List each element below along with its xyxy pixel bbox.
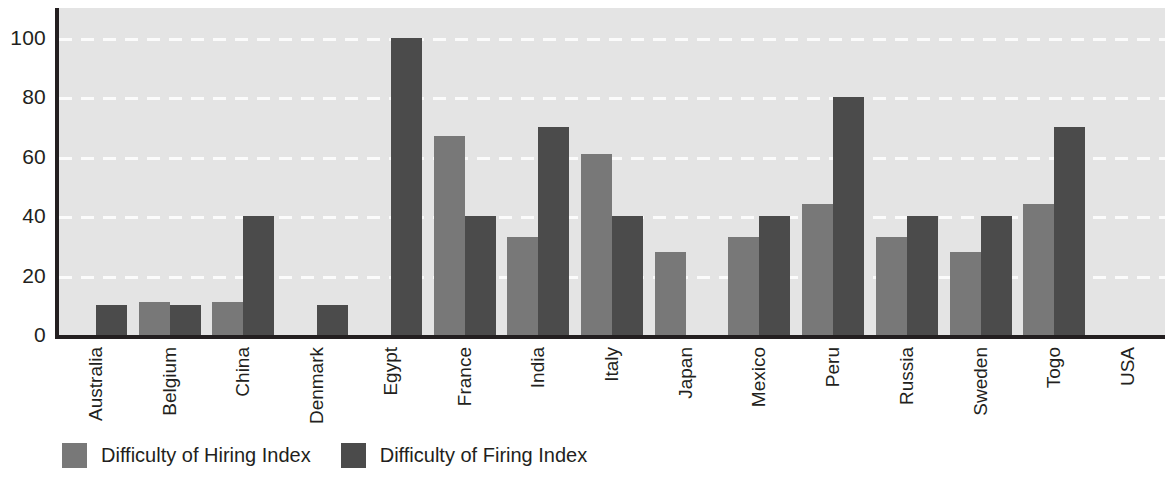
x-axis-label-cell: France — [428, 343, 502, 438]
bar-china-hiring — [212, 302, 243, 335]
y-axis-tick-60: 60 — [22, 145, 46, 169]
bar-group — [649, 8, 723, 335]
bar-italy-firing — [612, 216, 643, 335]
bar-mexico-firing — [759, 216, 790, 335]
x-axis-label-cell: Egypt — [354, 343, 428, 438]
bar-sweden-firing — [981, 216, 1012, 335]
bar-group — [501, 8, 575, 335]
x-axis-label-cell: China — [206, 343, 280, 438]
x-axis-label-india: India — [527, 347, 549, 388]
y-axis-tick-0: 0 — [34, 323, 46, 347]
bar-peru-hiring — [802, 204, 833, 335]
bar-group — [575, 8, 649, 335]
x-axis-label-cell: Togo — [1018, 343, 1092, 438]
bar-egypt-firing — [391, 38, 422, 335]
bar-group — [280, 8, 354, 335]
bar-russia-firing — [907, 216, 938, 335]
y-axis-tick-100: 100 — [10, 26, 46, 50]
x-axis-label-denmark: Denmark — [306, 347, 328, 424]
plot-area — [55, 8, 1165, 339]
x-axis-label-cell: Italy — [575, 343, 649, 438]
x-axis-label-china: China — [232, 347, 254, 397]
bar-belgium-firing — [170, 305, 201, 335]
bar-france-hiring — [434, 136, 465, 335]
bar-sweden-hiring — [950, 252, 981, 335]
bar-group — [1018, 8, 1092, 335]
x-axis-label-cell: Australia — [59, 343, 133, 438]
bar-group — [944, 8, 1018, 335]
x-axis-label-cell: Russia — [870, 343, 944, 438]
x-axis-label-egypt: Egypt — [380, 347, 402, 396]
bar-india-firing — [538, 127, 569, 335]
x-axis-label-cell: India — [501, 343, 575, 438]
bar-togo-firing — [1054, 127, 1085, 335]
bar-italy-hiring — [581, 154, 612, 335]
x-axis-label-italy: Italy — [601, 347, 623, 382]
bar-japan-hiring — [655, 252, 686, 335]
bar-group — [354, 8, 428, 335]
x-axis-label-cell: Sweden — [944, 343, 1018, 438]
x-axis-label-usa: USA — [1117, 347, 1139, 386]
bar-australia-firing — [96, 305, 127, 335]
legend-swatch-hire — [62, 443, 87, 468]
x-axis-label-mexico: Mexico — [748, 347, 770, 407]
bar-mexico-hiring — [728, 237, 759, 335]
bar-group — [428, 8, 502, 335]
x-axis-labels: AustraliaBelgiumChinaDenmarkEgyptFranceI… — [59, 343, 1165, 438]
x-axis-label-russia: Russia — [896, 347, 918, 405]
x-axis-label-japan: Japan — [675, 347, 697, 399]
x-axis-label-cell: Peru — [796, 343, 870, 438]
y-axis-tick-40: 40 — [22, 204, 46, 228]
bar-group — [796, 8, 870, 335]
bar-india-hiring — [507, 237, 538, 335]
chart-legend: Difficulty of Hiring IndexDifficulty of … — [62, 443, 587, 468]
bar-belgium-hiring — [139, 302, 170, 335]
bar-china-firing — [243, 216, 274, 335]
bar-denmark-firing — [317, 305, 348, 335]
bar-russia-hiring — [876, 237, 907, 335]
bar-groups — [59, 8, 1165, 335]
bar-togo-hiring — [1023, 204, 1054, 335]
x-axis-label-sweden: Sweden — [970, 347, 992, 416]
x-axis-label-belgium: Belgium — [159, 347, 181, 416]
y-axis: 020406080100 — [0, 0, 46, 498]
bar-group — [59, 8, 133, 335]
legend-label: Difficulty of Hiring Index — [101, 444, 311, 467]
x-axis-label-france: France — [454, 347, 476, 406]
x-axis-label-peru: Peru — [822, 347, 844, 387]
bar-group — [206, 8, 280, 335]
y-axis-tick-20: 20 — [22, 264, 46, 288]
y-axis-tick-80: 80 — [22, 85, 46, 109]
x-axis-label-togo: Togo — [1043, 347, 1065, 388]
legend-label: Difficulty of Firing Index — [380, 444, 588, 467]
legend-item[interactable]: Difficulty of Firing Index — [341, 443, 588, 468]
bar-chart: 020406080100 AustraliaBelgiumChinaDenmar… — [0, 0, 1170, 498]
x-axis-label-australia: Australia — [85, 347, 107, 421]
x-axis-label-cell: Mexico — [723, 343, 797, 438]
x-axis-label-cell: Denmark — [280, 343, 354, 438]
x-axis-label-cell: Japan — [649, 343, 723, 438]
x-axis-label-cell: Belgium — [133, 343, 207, 438]
legend-item[interactable]: Difficulty of Hiring Index — [62, 443, 311, 468]
x-axis-label-cell: USA — [1091, 343, 1165, 438]
bar-peru-firing — [833, 97, 864, 335]
bar-group — [723, 8, 797, 335]
bar-group — [870, 8, 944, 335]
legend-swatch-fire — [341, 443, 366, 468]
bar-france-firing — [465, 216, 496, 335]
bar-group — [133, 8, 207, 335]
bar-group — [1091, 8, 1165, 335]
